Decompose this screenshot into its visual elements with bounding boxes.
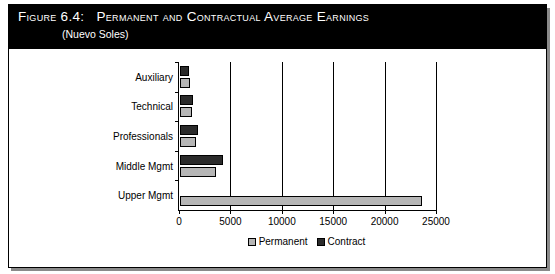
figure-container: Figure 6.4: Permanent and Contractual Av… <box>0 0 555 274</box>
page-title: Permanent and Contractual Average Earnin… <box>96 9 369 24</box>
xtick-label-0: 0 <box>176 216 182 227</box>
category-row-auxiliary: Auxiliary <box>179 62 436 92</box>
plot-area: 0 5000 10000 15000 20000 25000 Auxiliary… <box>178 62 436 211</box>
figure-title-bar: Figure 6.4: Permanent and Contractual Av… <box>8 4 547 48</box>
bar-contract-technical <box>180 95 193 105</box>
legend-swatch-permanent-icon <box>248 238 256 246</box>
xtick-10000 <box>282 210 283 214</box>
category-label-middle-mgmt: Middle Mgmt <box>116 160 173 171</box>
category-row-professionals: Professionals <box>179 121 436 151</box>
ytick-upper-mgmt <box>175 180 179 181</box>
frame-shadow-right <box>547 8 550 270</box>
chart-legend: Permanent Contract <box>178 236 435 247</box>
figure-subtitle: (Nuevo Soles) <box>62 27 547 41</box>
gridline-25000 <box>436 62 437 210</box>
xtick-label-25000: 25000 <box>422 216 450 227</box>
xtick-label-15000: 15000 <box>319 216 347 227</box>
legend-swatch-contract-icon <box>317 238 325 246</box>
bar-permanent-upper-mgmt <box>180 196 422 206</box>
xtick-5000 <box>230 210 231 214</box>
bar-permanent-technical <box>180 107 192 117</box>
xtick-label-5000: 5000 <box>219 216 241 227</box>
ytick-technical <box>175 92 179 93</box>
bar-permanent-professionals <box>180 137 196 147</box>
frame-shadow-bottom <box>11 268 550 271</box>
ytick-middle-mgmt <box>175 151 179 152</box>
xtick-15000 <box>333 210 334 214</box>
bar-permanent-auxiliary <box>180 78 190 88</box>
xtick-label-20000: 20000 <box>371 216 399 227</box>
legend-label-contract: Contract <box>328 236 366 247</box>
legend-item-permanent[interactable]: Permanent <box>248 236 308 247</box>
legend-label-permanent: Permanent <box>259 236 308 247</box>
category-label-technical: Technical <box>131 101 173 112</box>
ytick-professionals <box>175 121 179 122</box>
legend-item-contract[interactable]: Contract <box>317 236 366 247</box>
xtick-25000 <box>436 210 437 214</box>
figure-number: Figure 6.4: <box>18 9 84 24</box>
bar-contract-middle-mgmt <box>180 155 223 165</box>
ytick-auxiliary <box>175 62 179 63</box>
category-label-upper-mgmt: Upper Mgmt <box>118 190 173 201</box>
xtick-label-10000: 10000 <box>268 216 296 227</box>
bar-contract-professionals <box>180 125 198 135</box>
category-label-auxiliary: Auxiliary <box>135 71 173 82</box>
bar-contract-auxiliary <box>180 66 189 76</box>
xtick-20000 <box>385 210 386 214</box>
bar-permanent-middle-mgmt <box>180 167 216 177</box>
category-row-technical: Technical <box>179 92 436 122</box>
figure-title-line: Figure 6.4: Permanent and Contractual Av… <box>18 9 547 24</box>
category-row-upper-mgmt: Upper Mgmt <box>179 180 436 210</box>
xtick-0 <box>179 210 180 214</box>
category-row-middle-mgmt: Middle Mgmt <box>179 151 436 181</box>
category-label-professionals: Professionals <box>113 130 173 141</box>
